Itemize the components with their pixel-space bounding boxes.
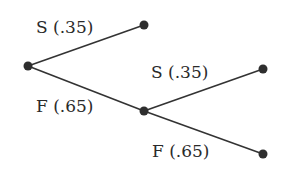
label-root-success: S (.35) [36,17,93,37]
node-first-failure [140,107,149,116]
node-root [24,62,33,71]
label-root-failure: F (.65) [36,96,94,116]
probability-tree: S (.35) F (.65) S (.35) F (.65) [0,0,283,169]
label-second-success: S (.35) [151,62,208,82]
node-second-success [259,65,268,74]
labels: S (.35) F (.65) S (.35) F (.65) [36,17,210,161]
edges [28,25,263,154]
nodes [24,21,268,159]
node-second-failure [259,150,268,159]
label-second-failure: F (.65) [152,141,210,161]
node-first-success [140,21,149,30]
